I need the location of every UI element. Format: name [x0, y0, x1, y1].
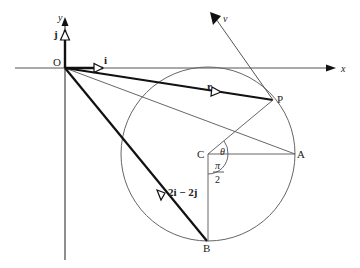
r-vector — [65, 68, 273, 100]
b-vector-label: 2i − 2j — [168, 186, 198, 198]
r-label: r — [207, 80, 212, 92]
i-label: i — [104, 54, 107, 66]
point-B-label: B — [203, 242, 210, 254]
point-C-label: C — [197, 148, 204, 160]
y-axis-label: y — [57, 12, 63, 23]
radius-CP — [208, 100, 273, 154]
point-A-label: A — [297, 148, 305, 160]
origin-label: O — [53, 56, 61, 68]
x-axis-label: x — [340, 63, 346, 74]
vector-diagram: y x O j i r 2i − 2j v P A B C θ π 2 — [0, 0, 360, 268]
j-arrow-icon — [61, 30, 70, 40]
theta-label: θ — [220, 146, 225, 157]
j-label: j — [53, 28, 58, 40]
y-axis-arrow-icon — [62, 17, 69, 26]
two-label: 2 — [215, 174, 220, 185]
v-vector — [216, 19, 273, 100]
pi-label: π — [215, 160, 221, 171]
b-vector — [65, 68, 207, 241]
v-label: v — [223, 13, 228, 24]
r-arrow-icon — [211, 87, 221, 96]
point-P-label: P — [277, 93, 283, 105]
i-arrow-icon — [94, 64, 103, 73]
x-axis-arrow-icon — [326, 65, 336, 72]
b-arrow-icon — [157, 190, 165, 200]
